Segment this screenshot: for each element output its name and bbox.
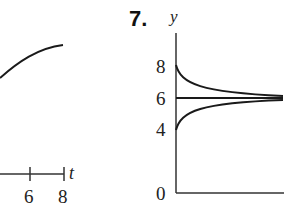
right-axis-label-y: y (170, 8, 178, 25)
lower-solution-curve (176, 100, 283, 130)
left-tick-label-8: 8 (58, 187, 68, 206)
right-graph (176, 33, 284, 193)
right-tick-label-4: 4 (156, 120, 166, 139)
left-axis-label-t: t (69, 164, 74, 182)
right-tick-label-8: 8 (156, 57, 166, 76)
right-tick-label-0: 0 (156, 184, 166, 203)
problem-number: 7. (129, 8, 147, 30)
left-tick-label-6: 6 (24, 187, 34, 206)
left-graph (0, 45, 64, 181)
right-tick-label-6: 6 (156, 89, 166, 108)
left-solution-curve (0, 45, 63, 78)
chart-canvas (0, 0, 287, 217)
upper-solution-curve (176, 65, 283, 96)
